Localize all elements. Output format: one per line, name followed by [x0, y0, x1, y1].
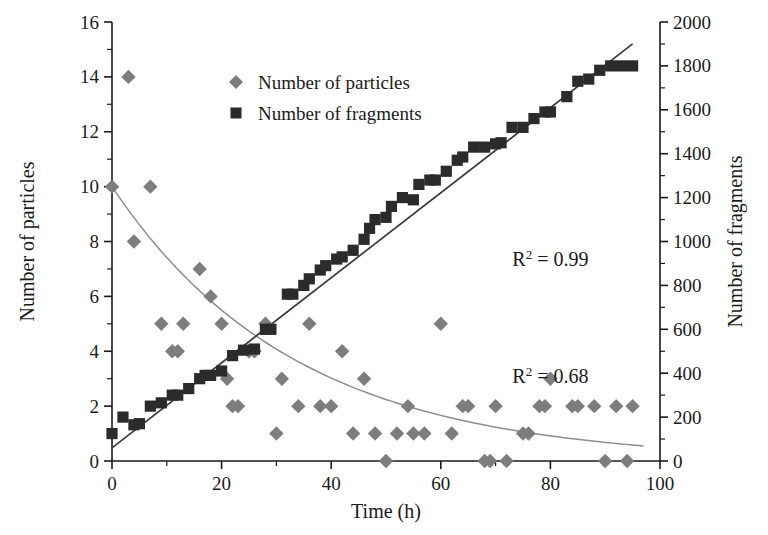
- right-tick-label: 400: [673, 363, 702, 384]
- fragment-data-point: [358, 234, 369, 245]
- particle-data-point: [609, 399, 623, 413]
- fragment-data-point: [561, 91, 572, 102]
- fragment-data-point: [145, 401, 156, 412]
- fragment-data-point: [605, 60, 616, 71]
- fragment-data-point: [386, 201, 397, 212]
- r-squared-particles-annotation: R2 = 0.68: [512, 364, 588, 387]
- particle-data-point: [401, 399, 415, 413]
- fragment-data-point: [183, 383, 194, 394]
- fragment-data-point: [156, 397, 167, 408]
- chart-annotations: R2 = 0.99R2 = 0.68: [512, 247, 588, 387]
- fragment-data-point: [249, 343, 260, 354]
- particle-data-point: [324, 399, 338, 413]
- fragment-data-point: [227, 350, 238, 361]
- chart-figure: 0246810121416 Number of particles 020040…: [0, 0, 768, 535]
- fragment-data-point: [594, 65, 605, 76]
- fragment-data-point: [413, 179, 424, 190]
- left-tick-label: 8: [90, 231, 100, 252]
- particle-data-point: [357, 371, 371, 385]
- x-axis-title: Time (h): [351, 500, 421, 523]
- fragment-data-point: [430, 174, 441, 185]
- particle-data-point: [214, 317, 228, 331]
- particle-data-point: [445, 426, 459, 440]
- legend-diamond-icon: [229, 75, 243, 89]
- right-tick-label: 0: [673, 451, 683, 472]
- fragment-data-point: [369, 214, 380, 225]
- left-tick-label: 6: [90, 286, 100, 307]
- fragment-data-point: [348, 245, 359, 256]
- right-axis-title: Number of fragments: [724, 155, 747, 327]
- fragment-data-point: [216, 365, 227, 376]
- left-axis-major-ticks: [104, 22, 112, 461]
- right-tick-label: 1400: [673, 143, 711, 164]
- particle-data-point: [587, 399, 601, 413]
- particle-data-point: [203, 289, 217, 303]
- left-axis-title: Number of particles: [16, 161, 39, 321]
- particle-data-point: [625, 399, 639, 413]
- fragment-data-point: [320, 260, 331, 271]
- fragment-data-point: [528, 113, 539, 124]
- legend-item-label: Number of fragments: [258, 103, 422, 124]
- particle-data-point: [176, 317, 190, 331]
- left-tick-label: 4: [90, 341, 100, 362]
- particle-data-point: [275, 371, 289, 385]
- x-tick-label: 60: [431, 473, 450, 494]
- particle-data-point: [121, 70, 135, 84]
- particle-data-point: [488, 399, 502, 413]
- particle-data-point: [143, 179, 157, 193]
- fragment-data-point: [572, 76, 583, 87]
- particle-data-point: [269, 426, 283, 440]
- legend-item: Number of fragments: [231, 103, 422, 124]
- fragment-data-point: [583, 73, 594, 84]
- left-tick-label: 14: [80, 66, 100, 87]
- particle-data-point: [434, 317, 448, 331]
- particle-data-point: [390, 426, 404, 440]
- left-tick-label: 10: [80, 176, 99, 197]
- particle-data-point: [499, 454, 513, 468]
- x-tick-label: 40: [322, 473, 341, 494]
- particle-data-point: [346, 426, 360, 440]
- particle-data-point: [598, 454, 612, 468]
- right-tick-label: 1000: [673, 231, 711, 252]
- fragment-data-point: [408, 194, 419, 205]
- fragment-data-point: [265, 324, 276, 335]
- particle-data-point: [154, 317, 168, 331]
- fragment-data-point: [495, 137, 506, 148]
- fragment-data-point: [457, 151, 468, 162]
- fragment-data-point: [545, 106, 556, 117]
- legend-square-icon: [231, 108, 242, 119]
- right-tick-label: 1200: [673, 187, 711, 208]
- chart-canvas: 0246810121416 Number of particles 020040…: [0, 0, 768, 535]
- fragment-data-point: [616, 60, 627, 71]
- fragment-data-point: [304, 273, 315, 284]
- x-tick-label: 20: [212, 473, 231, 494]
- particles-trend-line: [112, 187, 644, 446]
- legend-item: Number of particles: [229, 72, 410, 93]
- fragment-data-point: [117, 412, 128, 423]
- fragment-data-point: [479, 142, 490, 153]
- fragment-data-point: [238, 345, 249, 356]
- particle-data-point: [379, 454, 393, 468]
- particle-data-point: [417, 426, 431, 440]
- particle-data-point: [192, 262, 206, 276]
- legend-item-label: Number of particles: [258, 72, 410, 93]
- right-tick-label: 800: [673, 275, 702, 296]
- particle-data-point: [302, 317, 316, 331]
- left-tick-label: 12: [80, 121, 99, 142]
- left-axis-tick-labels: 0246810121416: [80, 12, 100, 472]
- fragment-data-point: [337, 251, 348, 262]
- right-axis-tick-labels: 0200400600800100012001400160018002000: [673, 12, 711, 472]
- fragment-data-point: [205, 370, 216, 381]
- bottom-axis: 020406080100 Time (h): [107, 461, 674, 523]
- right-tick-label: 600: [673, 319, 702, 340]
- particle-data-point: [291, 399, 305, 413]
- left-tick-label: 0: [90, 451, 100, 472]
- fragment-data-point: [627, 60, 638, 71]
- fragment-data-point: [134, 418, 145, 429]
- right-tick-label: 1800: [673, 55, 711, 76]
- particle-data-point: [127, 234, 141, 248]
- fragment-data-point: [380, 212, 391, 223]
- right-tick-label: 200: [673, 407, 702, 428]
- fragment-data-point: [287, 289, 298, 300]
- right-axis: 0200400600800100012001400160018002000 Nu…: [660, 12, 747, 472]
